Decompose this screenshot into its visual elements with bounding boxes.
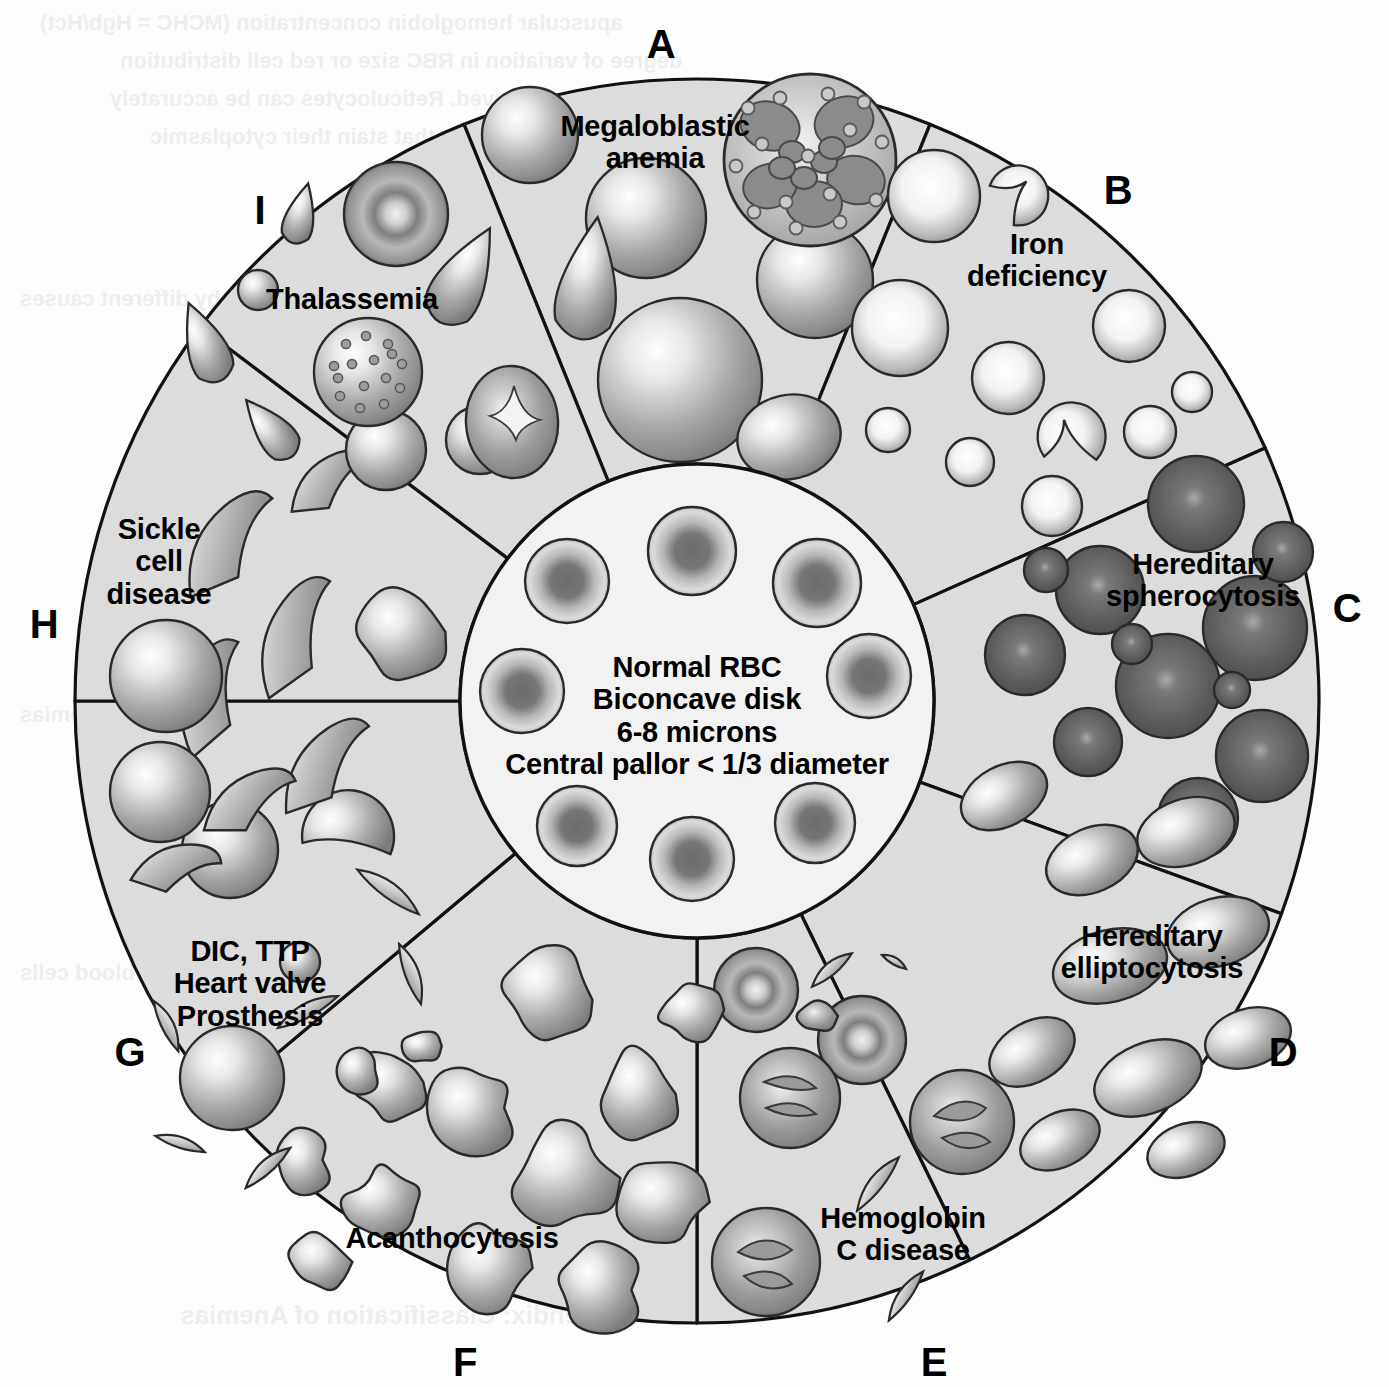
rbc-cell <box>1124 406 1176 458</box>
segment-letter-g: G <box>110 1030 150 1075</box>
cytoplasmic-granule <box>802 150 815 163</box>
basophilic-stipple <box>361 331 370 340</box>
rbc-cell <box>1054 708 1122 776</box>
label-line: DIC, TTP <box>110 935 390 967</box>
segment-label-g: DIC, TTPHeart valveProsthesis <box>110 935 390 1032</box>
rbc-cell <box>714 948 798 1032</box>
segment-label-f: Acanthocytosis <box>312 1222 592 1254</box>
cytoplasmic-granule <box>774 92 787 105</box>
basophilic-stipple <box>381 373 390 382</box>
schistocyte <box>402 1032 442 1062</box>
center-caption-line: Central pallor < 1/3 diameter <box>487 748 907 780</box>
normal-rbc <box>773 539 861 627</box>
segment-label-b: Irondeficiency <box>897 228 1177 293</box>
rbc-cell <box>344 162 448 266</box>
rbc-cell <box>1216 710 1308 802</box>
rbc-cell <box>985 615 1065 695</box>
label-line: deficiency <box>897 260 1177 292</box>
cytoplasmic-granule <box>790 222 803 235</box>
rbc-cell <box>866 408 910 452</box>
cytoplasmic-granule <box>844 124 857 137</box>
cytoplasmic-granule <box>780 196 793 209</box>
rbc-cell <box>1024 548 1068 592</box>
basophilic-stipple <box>333 373 342 382</box>
normal-rbc <box>648 507 736 595</box>
cytoplasmic-granule <box>822 88 835 101</box>
segment-label-e: HemoglobinC disease <box>763 1202 1043 1267</box>
normal-rbc <box>650 817 734 901</box>
rbc-cell <box>740 1048 840 1148</box>
basophilic-stipple <box>355 403 364 412</box>
segment-letter-d: D <box>1263 1030 1303 1075</box>
center-caption-line: 6-8 microns <box>487 716 907 748</box>
rbc-cell <box>1148 456 1244 552</box>
rbc-cell <box>910 1070 1014 1174</box>
rbc-cell <box>946 438 994 486</box>
label-line: cell <box>19 545 299 577</box>
segment-letter-e: E <box>914 1340 954 1385</box>
segment-label-a: Megaloblasticanemia <box>515 110 795 175</box>
rbc-cell <box>972 342 1044 414</box>
label-line: anemia <box>515 142 795 174</box>
center-caption: Normal RBCBiconcave disk6-8 micronsCentr… <box>487 651 907 781</box>
basophilic-stipple <box>395 383 404 392</box>
segment-label-d: Hereditaryelliptocytosis <box>1012 920 1292 985</box>
basophilic-stipple <box>369 355 378 364</box>
figure-canvas: apuscular hemoglobin concentration (MCHC… <box>0 0 1389 1387</box>
normal-rbc <box>537 786 617 866</box>
segment-label-h: Sicklecelldisease <box>19 513 299 610</box>
segment-label-c: Hereditaryspherocytosis <box>1063 548 1343 613</box>
segment-label-i: Thalassemia <box>212 283 492 315</box>
neutrophil-bridge <box>819 137 845 159</box>
segment-letter-b: B <box>1098 168 1138 213</box>
label-line: Hereditary <box>1063 548 1343 580</box>
label-line: Hemoglobin <box>763 1202 1043 1234</box>
basophilic-stipple <box>359 381 368 390</box>
rbc-cell <box>1022 476 1082 536</box>
rbc-cell <box>110 742 210 842</box>
label-line: Heart valve <box>110 967 390 999</box>
label-line: spherocytosis <box>1063 580 1343 612</box>
cytoplasmic-granule <box>870 194 883 207</box>
label-line: Hereditary <box>1012 920 1292 952</box>
label-line: Sickle <box>19 513 299 545</box>
center-caption-line: Normal RBC <box>487 651 907 683</box>
label-line: Thalassemia <box>212 283 492 315</box>
cytoplasmic-granule <box>748 206 761 219</box>
segment-letter-h: H <box>24 602 64 647</box>
basophilic-stipple <box>387 349 396 358</box>
basophilic-stipple <box>379 399 388 408</box>
label-line: Acanthocytosis <box>312 1222 592 1254</box>
center-caption-line: Biconcave disk <box>487 683 907 715</box>
label-line: C disease <box>763 1234 1043 1266</box>
segment-letter-c: C <box>1327 586 1367 631</box>
segment-letter-a: A <box>641 22 681 67</box>
rbc-cell <box>1214 672 1250 708</box>
rbc-cell <box>852 280 948 376</box>
normal-rbc <box>525 539 609 623</box>
cytoplasmic-granule <box>824 188 837 201</box>
cytoplasmic-granule <box>834 216 847 229</box>
schistocyte <box>337 1048 378 1095</box>
schistocyte <box>154 1129 207 1155</box>
label-line: Iron <box>897 228 1177 260</box>
cytoplasmic-granule <box>858 96 871 109</box>
label-line: Megaloblastic <box>515 110 795 142</box>
basophilic-stipple <box>347 359 356 368</box>
rbc-cell <box>110 620 222 732</box>
basophilic-stipple <box>383 339 392 348</box>
normal-rbc <box>775 783 855 863</box>
basophilic-stipple <box>397 359 406 368</box>
label-line: elliptocytosis <box>1012 952 1292 984</box>
basophilic-stipple <box>329 361 338 370</box>
segment-letter-i: I <box>240 188 280 233</box>
basophilic-stipple <box>335 391 344 400</box>
rbc-cell <box>1093 290 1165 362</box>
rbc-cell <box>180 1026 284 1130</box>
segment-letter-f: F <box>445 1340 485 1385</box>
basophilic-stipple <box>341 339 350 348</box>
cytoplasmic-granule <box>876 136 889 149</box>
label-line: Prosthesis <box>110 1000 390 1032</box>
acanthocyte <box>277 1128 330 1195</box>
rbc-cell <box>1112 624 1152 664</box>
